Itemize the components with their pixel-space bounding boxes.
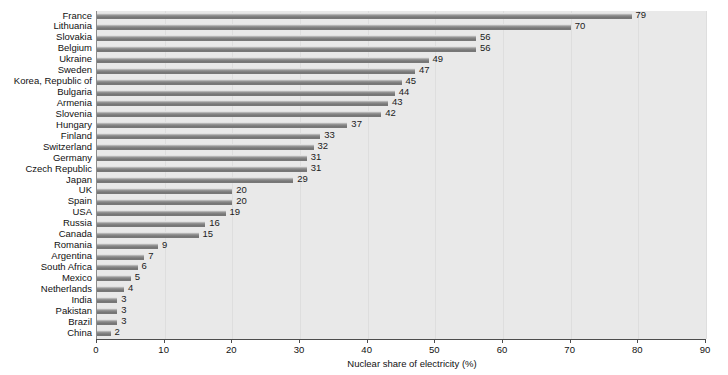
bar-row: 20 — [97, 186, 706, 197]
category-label: India — [0, 295, 92, 306]
x-tick-label: 70 — [564, 344, 575, 355]
bar-value-label: 33 — [324, 129, 335, 140]
x-tick — [96, 339, 97, 343]
category-label: Finland — [0, 131, 92, 142]
bar-row: 79 — [97, 11, 706, 22]
bar-value-label: 20 — [236, 195, 247, 206]
bar[interactable] — [97, 319, 117, 325]
bar-row: 3 — [97, 317, 706, 328]
bar[interactable] — [97, 199, 232, 205]
bar-row: 70 — [97, 22, 706, 33]
bar[interactable] — [97, 264, 138, 270]
bar[interactable] — [97, 286, 124, 292]
bar[interactable] — [97, 330, 111, 336]
category-axis-labels: FranceLithuaniaSlovakiaBelgiumUkraineSwe… — [0, 11, 92, 339]
bar-value-label: 45 — [406, 75, 417, 86]
bar[interactable] — [97, 111, 381, 117]
gridline — [706, 11, 707, 339]
bar-value-label: 5 — [135, 271, 140, 282]
bar[interactable] — [97, 57, 429, 63]
bar-value-label: 32 — [318, 140, 329, 151]
category-label: Switzerland — [0, 142, 92, 153]
category-label: Brazil — [0, 317, 92, 328]
bar-value-label: 56 — [480, 42, 491, 53]
bar-value-label: 9 — [162, 239, 167, 250]
x-tick — [502, 339, 503, 343]
bar-value-label: 70 — [575, 20, 586, 31]
x-axis-line — [96, 339, 706, 340]
bar-row: 33 — [97, 131, 706, 142]
x-axis-title-text: Nuclear share of electricity (%) — [347, 358, 476, 369]
bar-value-label: 79 — [636, 9, 647, 20]
bar[interactable] — [97, 155, 307, 161]
x-tick-label: 40 — [361, 344, 372, 355]
x-tick — [705, 339, 706, 343]
x-tick-label: 10 — [158, 344, 169, 355]
bar[interactable] — [97, 166, 307, 172]
bar[interactable] — [97, 24, 571, 30]
bar[interactable] — [97, 232, 199, 238]
bar-row: 32 — [97, 142, 706, 153]
x-tick — [570, 339, 571, 343]
bar[interactable] — [97, 275, 131, 281]
bar[interactable] — [97, 133, 320, 139]
bar[interactable] — [97, 122, 347, 128]
bar-value-label: 56 — [480, 31, 491, 42]
bar[interactable] — [97, 297, 117, 303]
bar-value-label: 47 — [419, 64, 430, 75]
category-label: Argentina — [0, 251, 92, 262]
bar-rows: 7970565649474544434237333231312920201916… — [97, 11, 706, 339]
x-tick-label: 0 — [93, 344, 98, 355]
bar-value-label: 43 — [392, 96, 403, 107]
bar-value-label: 15 — [203, 228, 214, 239]
bar-value-label: 29 — [297, 173, 308, 184]
x-tick — [434, 339, 435, 343]
x-tick — [164, 339, 165, 343]
bar-row: 5 — [97, 273, 706, 284]
bar[interactable] — [97, 46, 476, 52]
category-label: Mexico — [0, 273, 92, 284]
bar-value-label: 44 — [399, 86, 410, 97]
bar[interactable] — [97, 188, 232, 194]
bar-row: 4 — [97, 284, 706, 295]
bar[interactable] — [97, 100, 388, 106]
bar-value-label: 7 — [148, 250, 153, 261]
bar-value-label: 3 — [121, 315, 126, 326]
bar-row: 15 — [97, 230, 706, 241]
bar-row: 3 — [97, 306, 706, 317]
bar-row: 2 — [97, 328, 706, 339]
bar-row: 47 — [97, 66, 706, 77]
bar[interactable] — [97, 90, 395, 96]
x-tick-label: 60 — [497, 344, 508, 355]
category-label: China — [0, 328, 92, 339]
x-tick-label: 80 — [632, 344, 643, 355]
bar-row: 31 — [97, 164, 706, 175]
x-tick — [637, 339, 638, 343]
bar[interactable] — [97, 13, 632, 19]
bar[interactable] — [97, 68, 415, 74]
bar-row: 49 — [97, 55, 706, 66]
bar[interactable] — [97, 221, 205, 227]
bar[interactable] — [97, 210, 226, 216]
bar[interactable] — [97, 79, 402, 85]
bar-row: 42 — [97, 109, 706, 120]
bar-value-label: 37 — [351, 118, 362, 129]
bar-row: 16 — [97, 219, 706, 230]
bar-value-label: 6 — [142, 260, 147, 271]
x-axis-title: Nuclear share of electricity (%) — [0, 358, 728, 369]
bar[interactable] — [97, 308, 117, 314]
bar[interactable] — [97, 35, 476, 41]
x-tick — [231, 339, 232, 343]
bar[interactable] — [97, 254, 144, 260]
bar-row: 31 — [97, 153, 706, 164]
bar-row: 29 — [97, 175, 706, 186]
bar[interactable] — [97, 177, 293, 183]
bar[interactable] — [97, 144, 314, 150]
bar[interactable] — [97, 243, 158, 249]
x-tick-label: 90 — [700, 344, 711, 355]
category-label: Slovenia — [0, 109, 92, 120]
category-label: Bulgaria — [0, 87, 92, 98]
x-tick — [299, 339, 300, 343]
bar-value-label: 49 — [433, 53, 444, 64]
x-tick-label: 20 — [226, 344, 237, 355]
